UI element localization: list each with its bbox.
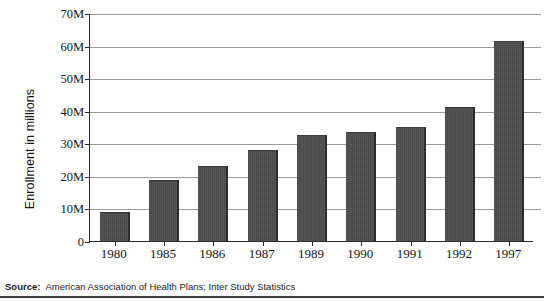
bar-slot (248, 14, 278, 241)
x-axis-label: 1992 (446, 246, 472, 262)
y-axis-label: 30M (60, 137, 84, 152)
y-axis-tick (85, 242, 90, 243)
bar-slot (445, 14, 475, 241)
bar-slot (149, 14, 179, 241)
y-axis-label: 10M (60, 202, 84, 217)
bars-group (90, 14, 533, 241)
x-axis-label: 1986 (199, 246, 225, 262)
y-axis-title: Enrollment in millions (22, 44, 38, 254)
y-axis-label: 50M (60, 72, 84, 87)
bar (396, 127, 426, 241)
y-axis-label: 70M (60, 7, 84, 22)
x-axis-tick-labels: 198019851986198719891990199119921997 (89, 246, 533, 266)
x-axis-label: 1991 (397, 246, 423, 262)
bar (297, 135, 327, 241)
bar (198, 166, 228, 241)
bar-slot (198, 14, 228, 241)
x-axis-label: 1980 (101, 246, 127, 262)
x-axis-label: 1987 (249, 246, 275, 262)
bar-slot (396, 14, 426, 241)
bar (346, 132, 376, 241)
figure: Enrollment in millions 010M20M30M40M50M6… (0, 0, 544, 301)
x-axis-label: 1989 (298, 246, 324, 262)
bar (149, 180, 179, 241)
bar-slot (494, 14, 524, 241)
x-axis-label: 1985 (150, 246, 176, 262)
source-label: Source: (5, 281, 40, 292)
source-line: Source:American Association of Health Pl… (5, 281, 539, 292)
x-axis-label: 1990 (347, 246, 373, 262)
y-axis-label: 20M (60, 169, 84, 184)
y-axis-label: 40M (60, 104, 84, 119)
bar (445, 107, 475, 241)
bar-slot (100, 14, 130, 241)
footer-divider (0, 296, 544, 298)
bar (100, 212, 130, 241)
bar (494, 41, 524, 241)
y-axis-label: 0 (78, 235, 84, 250)
bar-slot (297, 14, 327, 241)
bar-chart: Enrollment in millions 010M20M30M40M50M6… (0, 0, 544, 276)
plot-area (89, 14, 533, 242)
y-axis-tick-labels: 010M20M30M40M50M60M70M (44, 14, 88, 242)
bar-slot (346, 14, 376, 241)
x-axis-label: 1997 (495, 246, 521, 262)
bar (248, 150, 278, 241)
source-text: American Association of Health Plans; In… (45, 281, 295, 292)
y-axis-label: 60M (60, 39, 84, 54)
